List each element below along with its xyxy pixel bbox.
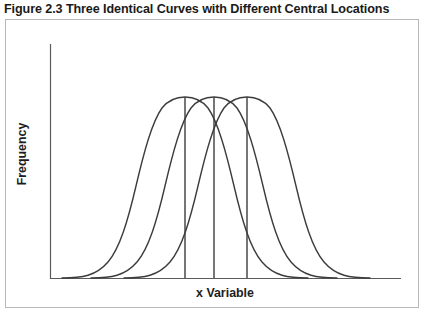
figure-container: Figure 2.3 Three Identical Curves with D… [0, 0, 424, 312]
axis-lines [50, 44, 401, 279]
chart-plot-area [0, 0, 424, 312]
y-axis-label: Frequency [15, 99, 29, 209]
curve-group [62, 97, 370, 278]
x-axis-label: x Variable [50, 286, 400, 300]
